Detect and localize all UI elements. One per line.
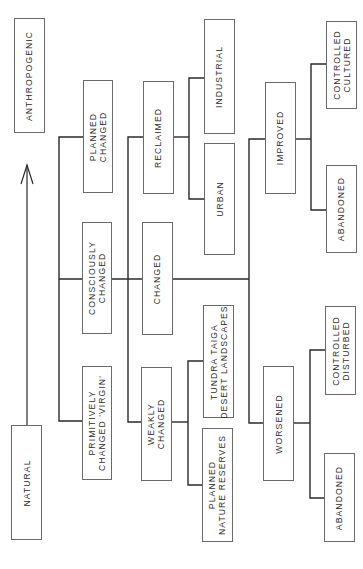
node-planned-nature-reserves: PLANNED NATURE RESERVES bbox=[202, 428, 233, 542]
improved-bracket bbox=[311, 64, 326, 210]
label-weakly-changed: WEAKLY CHANGED bbox=[147, 399, 167, 450]
node-anthropogenic: ANTHROPOGENIC bbox=[14, 18, 45, 133]
label-anthropogenic: ANTHROPOGENIC bbox=[25, 30, 35, 120]
label-controlled-cultured: CONTROLLED CULTURED bbox=[332, 30, 352, 100]
node-changed: CHANGED bbox=[142, 222, 173, 335]
node-urban: URBAN bbox=[204, 143, 235, 255]
landscape-classification-diagram: ANTHROPOGENIC NATURAL PLANNED CHANGED CO… bbox=[0, 0, 363, 569]
label-tundra-taiga-desert: TUNDRA TAIGA DESERT LANDSCAPES bbox=[209, 305, 229, 418]
node-abandoned-improved: ABANDONED bbox=[326, 165, 357, 253]
node-primitively-changed: PRIMITIVELY CHANGED 'VIRGIN' bbox=[82, 366, 112, 480]
label-industrial: INDUSTRIAL bbox=[215, 45, 225, 107]
label-controlled-disturbed: CONTROLLED DISTURBED bbox=[331, 316, 351, 386]
node-abandoned-worsened: ABANDONED bbox=[324, 453, 355, 542]
label-consciously-changed: CONSCIOUSLY CHANGED bbox=[87, 241, 107, 315]
node-controlled-disturbed: CONTROLLED DISTURBED bbox=[325, 306, 356, 395]
label-changed: CHANGED bbox=[153, 253, 163, 304]
label-abandoned-improved: ABANDONED bbox=[337, 177, 347, 241]
node-tundra-taiga-desert: TUNDRA TAIGA DESERT LANDSCAPES bbox=[203, 305, 234, 418]
node-weakly-changed: WEAKLY CHANGED bbox=[141, 367, 172, 481]
label-reclaimed: RECLAIMED bbox=[154, 107, 164, 167]
label-worsened: WORSENED bbox=[274, 394, 284, 453]
label-planned-changed: PLANNED CHANGED bbox=[88, 111, 108, 162]
label-planned-nature-reserves: PLANNED NATURE RESERVES bbox=[208, 435, 228, 535]
node-industrial: INDUSTRIAL bbox=[204, 19, 235, 134]
label-natural: NATURAL bbox=[22, 459, 32, 506]
node-controlled-cultured: CONTROLLED CULTURED bbox=[326, 21, 357, 109]
weakly-bracket bbox=[188, 361, 203, 485]
worsened-bracket bbox=[310, 350, 325, 498]
node-natural: NATURAL bbox=[11, 425, 42, 540]
reclaimed-bracket bbox=[189, 78, 204, 199]
label-urban: URBAN bbox=[215, 181, 225, 217]
label-primitively-changed: PRIMITIVELY CHANGED 'VIRGIN' bbox=[87, 375, 107, 471]
node-consciously-changed: CONSCIOUSLY CHANGED bbox=[82, 222, 112, 334]
node-worsened: WORSENED bbox=[263, 366, 294, 481]
label-improved: IMPROVED bbox=[276, 111, 286, 166]
label-abandoned-worsened: ABANDONED bbox=[335, 465, 345, 529]
node-reclaimed: RECLAIMED bbox=[143, 81, 174, 194]
connector-lines bbox=[0, 0, 363, 569]
node-planned-changed: PLANNED CHANGED bbox=[83, 80, 113, 193]
node-improved: IMPROVED bbox=[265, 82, 296, 194]
